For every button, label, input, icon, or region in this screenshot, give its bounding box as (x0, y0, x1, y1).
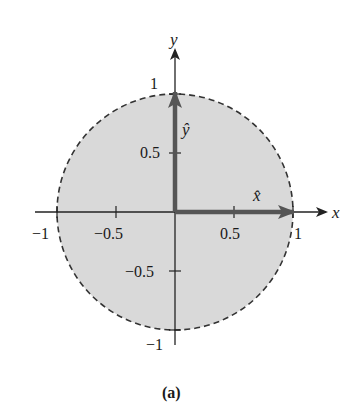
unit-disk-diagram: x y −1 −0.5 0.5 1 1 0.5 −0.5 −1 x̂ ŷ (a) (0, 0, 354, 417)
y-hat-label: ŷ (180, 120, 190, 139)
y-tick-label-neg1: −1 (146, 336, 163, 353)
figure-caption: (a) (162, 384, 181, 402)
x-tick-label-1: 1 (294, 225, 302, 242)
x-hat-label: x̂ (252, 186, 261, 205)
y-axis-label: y (168, 30, 178, 49)
x-tick-label-05: 0.5 (220, 225, 240, 242)
y-tick-label-neg05: −0.5 (125, 263, 154, 280)
y-tick-label-05: 0.5 (140, 144, 160, 161)
x-tick-label-neg05: −0.5 (94, 225, 123, 242)
x-axis-label: x (331, 203, 340, 222)
y-tick-label-1: 1 (150, 75, 158, 92)
x-tick-label-neg1: −1 (32, 225, 49, 242)
